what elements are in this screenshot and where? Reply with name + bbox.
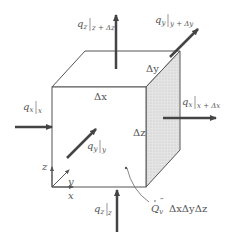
qz-in-label: qz z (94, 203, 112, 217)
svg-text:x: x (38, 107, 42, 115)
svg-text:y + Δy: y + Δy (169, 20, 194, 28)
svg-text:z: z (107, 209, 112, 217)
svg-text:qx: qx (182, 96, 192, 109)
svg-text:‴: ‴ (160, 197, 164, 205)
svg-text:x + Δx: x + Δx (197, 102, 220, 110)
dx-label: Δx (94, 91, 107, 102)
axis-x-label: x (68, 190, 74, 201)
dz-label: Δz (133, 127, 146, 138)
generation-point (125, 167, 127, 169)
qy-out-arrow (170, 29, 198, 57)
control-volume-cube (52, 51, 180, 187)
svg-text:qx: qx (23, 101, 33, 114)
qx-out-label: qx x + Δx (182, 96, 220, 110)
generation-label: Qv ‴ ΔxΔyΔz (151, 197, 207, 216)
dy-label: Δy (146, 63, 159, 74)
front-face (52, 87, 146, 187)
axis-z-label: z (41, 161, 48, 172)
axis-y-label: y (67, 176, 74, 187)
svg-text:qz: qz (77, 18, 87, 31)
svg-text:ΔxΔyΔz: ΔxΔyΔz (169, 203, 207, 214)
qx-in-label: qx x (23, 101, 42, 115)
qy-out-label: qy y + Δy (155, 14, 194, 28)
heat-conduction-diagram: z y x Δx Δy Δz qz z + Δz qy y + Δy qx x … (0, 0, 234, 239)
qz-out-label: qz z + Δz (77, 18, 115, 32)
svg-text:qz: qz (94, 203, 104, 216)
svg-text:qy: qy (155, 14, 166, 27)
svg-text:z + Δz: z + Δz (91, 24, 115, 32)
